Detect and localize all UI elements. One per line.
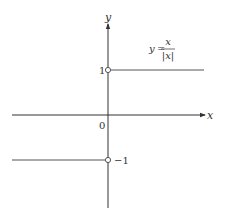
svg-text:x: x	[165, 36, 171, 47]
svg-text:y: y	[148, 43, 155, 54]
open-circle-lower	[105, 157, 110, 162]
x-axis-label: x	[207, 109, 214, 122]
graph: y x 0 1 −1 y = x |x|	[0, 0, 225, 220]
tick-label-neg1: −1	[114, 155, 129, 166]
tick-label-1: 1	[99, 65, 105, 76]
origin-label: 0	[99, 120, 105, 131]
equation-label: y = x |x|	[148, 36, 175, 62]
y-axis-label: y	[104, 11, 112, 24]
open-circle-upper	[105, 67, 110, 72]
svg-text:|x|: |x|	[162, 50, 174, 62]
